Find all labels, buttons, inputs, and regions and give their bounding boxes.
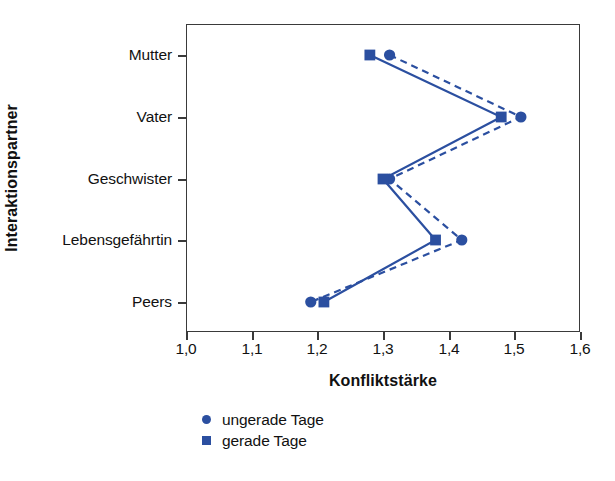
legend-label-gerade-tage: gerade Tage [222, 432, 307, 450]
y-label-mutter: Mutter [129, 46, 172, 64]
x-label-1-4: 1,4 [438, 340, 459, 358]
plot-area [186, 24, 580, 332]
chart-legend: ungerade Tage gerade Tage [196, 409, 324, 451]
x-tick-1-5 [514, 332, 516, 340]
legend-item-gerade-tage: gerade Tage [196, 430, 324, 451]
chart-figure: Mutter Vater Geschwister Lebensgefährtin… [0, 0, 615, 481]
x-label-1-5: 1,5 [503, 340, 524, 358]
x-label-1-6: 1,6 [569, 340, 590, 358]
y-tick-peers [178, 302, 186, 304]
y-label-lebensgefaehrtin: Lebensgefährtin [62, 231, 172, 249]
legend-label-ungerade-tage: ungerade Tage [222, 411, 324, 429]
y-tick-lebensgefaehrtin [178, 240, 186, 242]
circle-marker-icon [196, 415, 216, 424]
x-tick-1-0 [186, 332, 188, 340]
x-tick-1-4 [449, 332, 451, 340]
y-label-vater: Vater [137, 108, 172, 126]
x-tick-1-2 [317, 332, 319, 340]
x-tick-1-1 [252, 332, 254, 340]
y-axis-title: Interaktionspartner [3, 104, 21, 252]
x-label-1-2: 1,2 [306, 340, 327, 358]
square-marker-icon [196, 436, 216, 445]
y-axis-tick-labels: Mutter Vater Geschwister Lebensgefährtin… [0, 0, 172, 481]
y-tick-vater [178, 117, 186, 119]
y-label-peers: Peers [132, 293, 172, 311]
x-label-1-0: 1,0 [175, 340, 196, 358]
x-label-1-3: 1,3 [372, 340, 393, 358]
legend-item-ungerade-tage: ungerade Tage [196, 409, 324, 430]
x-tick-1-3 [383, 332, 385, 340]
x-label-1-1: 1,1 [241, 340, 262, 358]
y-tick-mutter [178, 55, 186, 57]
x-tick-1-6 [580, 332, 582, 340]
y-label-geschwister: Geschwister [88, 170, 172, 188]
y-tick-geschwister [178, 179, 186, 181]
x-axis-title: Konfliktstärke [186, 372, 580, 390]
